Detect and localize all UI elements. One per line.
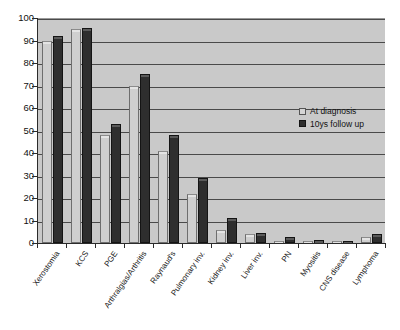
x-axis-label: PN <box>280 250 293 264</box>
bar-top-highlight <box>112 125 120 127</box>
bar-at-diagnosis <box>245 234 255 243</box>
legend-label: At diagnosis <box>310 107 356 116</box>
bar-at-diagnosis <box>187 194 197 244</box>
x-axis-label: Myositis <box>299 250 322 278</box>
bar-at-diagnosis <box>129 86 139 244</box>
bar-followup <box>53 36 63 243</box>
x-axis-tick-mark <box>211 243 212 248</box>
bar-top-highlight <box>199 179 207 181</box>
bar-top-highlight <box>228 219 236 221</box>
bar-at-diagnosis <box>216 230 226 244</box>
y-axis-tick-mark <box>32 41 37 42</box>
bar-top-highlight <box>286 238 294 240</box>
y-axis-tick-mark <box>32 86 37 87</box>
y-axis-line <box>37 18 38 244</box>
x-axis-tick-mark <box>124 243 125 248</box>
x-axis-label: PGE <box>103 250 119 268</box>
y-axis-tick-mark <box>32 153 37 154</box>
x-axis-tick-mark <box>153 243 154 248</box>
x-axis-label: Xerostomia <box>31 250 61 288</box>
bar-chart: 0102030405060708090100 XerostomiaKCSPGEA… <box>0 0 400 330</box>
bar-top-highlight <box>83 29 91 31</box>
x-axis-tick-mark <box>182 243 183 248</box>
bar-top-highlight <box>101 136 109 138</box>
x-axis-label: Liver inv. <box>239 250 264 280</box>
y-axis-tick-mark <box>32 198 37 199</box>
legend-item: At diagnosis <box>299 107 364 116</box>
bar-top-highlight <box>188 195 196 197</box>
y-axis-tick-label: 20 <box>0 193 34 203</box>
x-axis-tick-mark <box>95 243 96 248</box>
x-axis-tick-mark <box>385 243 386 248</box>
x-axis-tick-mark <box>298 243 299 248</box>
bar-followup <box>256 233 266 243</box>
bar-top-highlight <box>159 152 167 154</box>
y-axis-tick-label: 100 <box>0 13 34 23</box>
bar-followup <box>111 124 121 243</box>
x-axis-tick-mark <box>240 243 241 248</box>
y-axis-tick-label: 0 <box>0 238 34 248</box>
x-axis-label: Raynaud's <box>149 250 177 285</box>
bar-top-highlight <box>362 238 370 240</box>
bar-top-highlight <box>246 235 254 237</box>
chart-legend: At diagnosis10ys follow up <box>299 107 364 132</box>
bar-followup <box>82 28 92 243</box>
x-axis-label: KCS <box>74 250 90 268</box>
bar-followup <box>140 74 150 243</box>
y-axis-tick-mark <box>32 131 37 132</box>
legend-swatch-dark <box>299 120 306 127</box>
y-axis-tick-label: 90 <box>0 36 34 46</box>
bar-at-diagnosis <box>100 135 110 243</box>
y-axis-tick-mark <box>32 176 37 177</box>
x-axis-tick-mark <box>327 243 328 248</box>
y-axis-tick-label: 30 <box>0 171 34 181</box>
y-axis-tick-label: 40 <box>0 148 34 158</box>
x-axis-tick-mark <box>66 243 67 248</box>
y-axis-tick-mark <box>32 108 37 109</box>
bar-top-highlight <box>130 87 138 89</box>
legend-label: 10ys follow up <box>310 120 364 129</box>
x-axis-label: CNS disease <box>318 250 351 293</box>
y-axis-tick-label: 10 <box>0 216 34 226</box>
y-axis-tick-label: 70 <box>0 81 34 91</box>
bar-top-highlight <box>257 234 265 236</box>
bar-at-diagnosis <box>71 29 81 243</box>
y-axis-tick-label: 60 <box>0 103 34 113</box>
y-axis-tick-mark <box>32 18 37 19</box>
bar-at-diagnosis <box>158 151 168 243</box>
bar-top-highlight <box>43 42 51 44</box>
legend-swatch-light <box>299 108 306 115</box>
bar-top-highlight <box>373 235 381 237</box>
y-axis-tick-mark <box>32 221 37 222</box>
bar-followup <box>198 178 208 243</box>
bar-top-highlight <box>217 231 225 233</box>
x-axis-tick-mark <box>37 243 38 248</box>
bar-followup <box>227 218 237 243</box>
x-axis-label: Lymphoma <box>351 250 380 287</box>
y-axis-tick-label: 50 <box>0 126 34 136</box>
bar-at-diagnosis <box>42 41 52 244</box>
y-axis-tick-label: 80 <box>0 58 34 68</box>
x-axis-label: Kidney inv. <box>206 250 235 286</box>
x-axis-tick-mark <box>356 243 357 248</box>
bar-top-highlight <box>141 75 149 77</box>
y-axis-tick-mark <box>32 63 37 64</box>
legend-item: 10ys follow up <box>299 120 364 129</box>
bar-followup <box>372 234 382 243</box>
bar-top-highlight <box>72 30 80 32</box>
bar-top-highlight <box>170 136 178 138</box>
bar-top-highlight <box>54 37 62 39</box>
bar-followup <box>169 135 179 243</box>
x-axis-tick-mark <box>269 243 270 248</box>
